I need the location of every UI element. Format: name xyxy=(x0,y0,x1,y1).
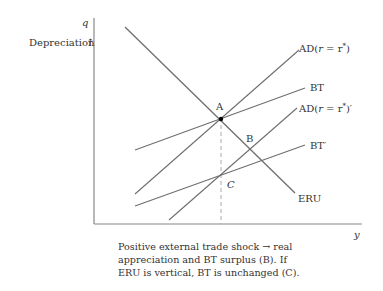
up-arrow-icon: ↑ xyxy=(86,37,94,48)
point-c-label: C xyxy=(227,179,235,190)
ad-prime-line xyxy=(169,108,297,220)
eru-line xyxy=(125,27,295,193)
bt-label: BT xyxy=(310,82,324,93)
point-a-marker xyxy=(219,117,223,121)
bt-prime-label: BT′ xyxy=(310,140,327,151)
caption-line-2: appreciation and BT surplus (B). If xyxy=(118,253,318,266)
bt-prime-line xyxy=(135,145,305,206)
y-axis-label: q xyxy=(82,17,88,28)
x-axis-label: y xyxy=(353,229,360,240)
ad-label: AD(r = r*) xyxy=(298,42,350,54)
caption-line-1: Positive external trade shock → real xyxy=(118,240,318,253)
point-a-label: A xyxy=(215,101,224,112)
eru-label: ERU xyxy=(298,193,321,204)
diagram-caption: Positive external trade shock → real app… xyxy=(118,240,318,279)
ad-prime-label: AD(r = r*)′ xyxy=(298,102,353,114)
caption-line-3: ERU is vertical, BT is unchanged (C). xyxy=(118,266,318,279)
point-b-label: B xyxy=(246,133,253,144)
